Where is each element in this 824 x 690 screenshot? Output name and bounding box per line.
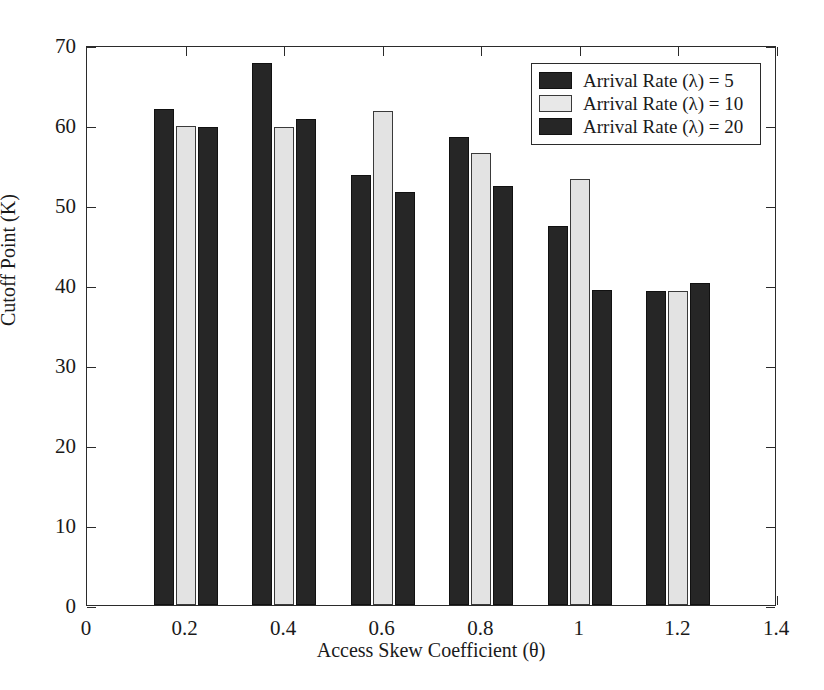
y-axis-tick-right [766, 607, 775, 608]
x-axis-tick-label: 1.2 [664, 618, 690, 639]
x-axis-tick-top [481, 47, 482, 56]
bar [449, 137, 469, 605]
y-axis-tick-label: 40 [55, 276, 76, 297]
bar [646, 291, 666, 605]
bar [373, 111, 393, 605]
bar [668, 291, 688, 605]
x-axis-tick-label: 1 [574, 618, 585, 639]
x-axis-tick-label: 0 [81, 618, 92, 639]
y-axis-tick-right [766, 447, 775, 448]
y-axis-tick-label: 10 [55, 516, 76, 537]
y-axis-tick [87, 287, 96, 288]
y-axis-tick-right [766, 527, 775, 528]
y-axis-tick-label: 60 [55, 116, 76, 137]
legend-item: Arrival Rate (λ) = 10 [539, 92, 753, 115]
legend-item-label: Arrival Rate (λ) = 10 [583, 94, 743, 113]
legend-item-label: Arrival Rate (λ) = 20 [583, 117, 743, 136]
y-axis-title: Cutoff Point (K) [0, 194, 20, 326]
y-axis-tick [87, 207, 96, 208]
legend-swatch-icon [539, 72, 572, 89]
chart-figure: Cutoff Point (K) Access Skew Coefficient… [0, 0, 824, 690]
legend-item: Arrival Rate (λ) = 20 [539, 115, 753, 138]
y-axis-tick-label: 0 [66, 596, 77, 617]
x-axis-tick-top [777, 47, 778, 56]
bar [198, 127, 218, 605]
legend-item-label: Arrival Rate (λ) = 5 [583, 71, 734, 90]
bar [252, 63, 272, 605]
x-axis-tick-label: 0.8 [467, 618, 493, 639]
x-axis-tick-top [383, 47, 384, 56]
bar [493, 186, 513, 605]
bar [274, 127, 294, 605]
y-axis-tick [87, 367, 96, 368]
x-axis-tick-label: 0.6 [369, 618, 395, 639]
y-axis-tick-label: 50 [55, 196, 76, 217]
legend-swatch-icon [539, 95, 572, 112]
x-axis-tick-top [284, 47, 285, 56]
legend-item: Arrival Rate (λ) = 5 [539, 69, 753, 92]
y-axis-tick-right [766, 207, 775, 208]
y-axis-tick [87, 607, 96, 608]
legend-swatch-icon [539, 118, 572, 135]
bar [690, 283, 710, 605]
bar [471, 153, 491, 605]
x-axis-tick-top [678, 47, 679, 56]
x-axis-tick-top [580, 47, 581, 56]
y-axis-tick [87, 447, 96, 448]
x-axis-tick-label: 0.4 [270, 618, 296, 639]
y-axis-tick-label: 70 [55, 36, 76, 57]
x-axis-tick-label: 0.2 [171, 618, 197, 639]
bar [548, 226, 568, 605]
y-axis-tick-right [766, 127, 775, 128]
bar [351, 175, 371, 605]
bar [592, 290, 612, 605]
bar [296, 119, 316, 605]
bar [395, 192, 415, 605]
y-axis-tick-right [766, 47, 775, 48]
y-axis-tick [87, 47, 96, 48]
x-axis-tick [777, 596, 778, 605]
y-axis-tick-label: 30 [55, 356, 76, 377]
legend: Arrival Rate (λ) = 5Arrival Rate (λ) = 1… [531, 63, 761, 145]
x-axis-title: Access Skew Coefficient (θ) [317, 639, 546, 662]
y-axis-tick-label: 20 [55, 436, 76, 457]
y-axis-tick [87, 527, 96, 528]
x-axis-tick-label: 1.4 [763, 618, 789, 639]
y-axis-tick-right [766, 287, 775, 288]
bar [176, 126, 196, 605]
bar [154, 109, 174, 605]
bar [570, 179, 590, 605]
y-axis-tick [87, 127, 96, 128]
x-axis-tick-top [186, 47, 187, 56]
y-axis-tick-right [766, 367, 775, 368]
